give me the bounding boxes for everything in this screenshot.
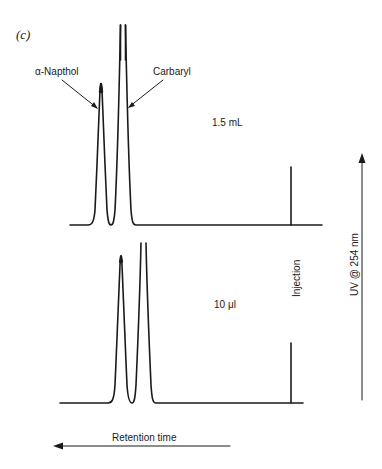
trace-bottom-10ul xyxy=(60,243,303,403)
napthol-arrowhead-icon xyxy=(91,102,98,109)
arrow-up-icon xyxy=(359,153,366,163)
label-arrows xyxy=(62,80,163,108)
label-alpha-napthol: α-Napthol xyxy=(35,67,79,77)
panel-label-text: (c) xyxy=(16,27,30,42)
trace-top-1.5ml xyxy=(70,25,322,225)
label-injection: Injection xyxy=(292,260,302,297)
label-bottom-volume: 10 μl xyxy=(214,300,236,310)
label-top-volume: 1.5 mL xyxy=(212,118,243,128)
label-x-axis: Retention time xyxy=(112,433,176,443)
panel-label: (c) xyxy=(16,28,30,41)
arrow-left-icon xyxy=(53,443,63,450)
label-carbaryl: Carbaryl xyxy=(153,67,191,77)
label-y-axis: UV @ 254 nm xyxy=(350,233,360,296)
